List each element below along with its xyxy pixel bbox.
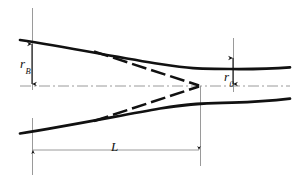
figure-canvas <box>0 0 294 189</box>
length-symbol: L <box>111 139 118 154</box>
lower-asymptote-line <box>94 87 199 122</box>
beam-radius-label: rB <box>20 57 30 73</box>
length-label: L <box>111 140 118 153</box>
waist-radius-subscript: 0 <box>230 79 234 89</box>
waist-radius-symbol: r <box>224 69 229 84</box>
beam-radius-subscript: B <box>26 66 31 76</box>
beam-waist-figure: rB r0 L <box>0 0 294 189</box>
lower-beam-envelope <box>20 99 290 134</box>
waist-radius-label: r0 <box>224 70 233 86</box>
upper-beam-envelope <box>20 40 290 69</box>
beam-radius-symbol: r <box>20 56 25 71</box>
